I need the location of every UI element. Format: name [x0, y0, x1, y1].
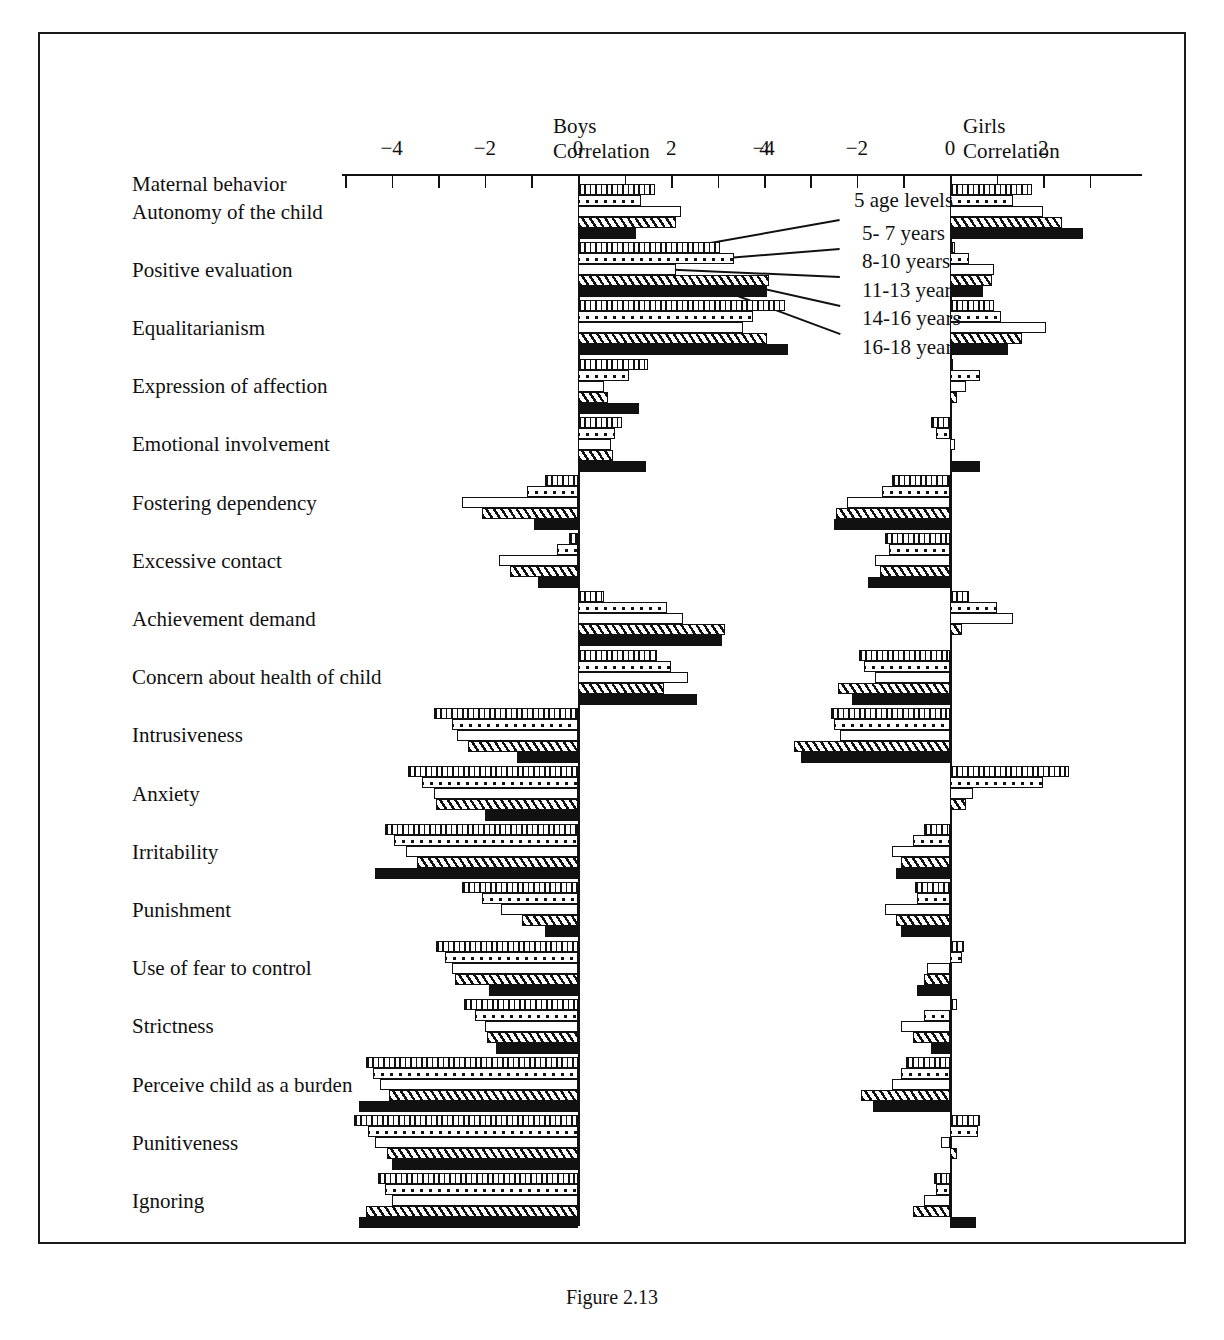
bar-boys-6-2	[499, 555, 578, 566]
bar-boys-11-2	[406, 846, 578, 857]
bar-boys-7-1	[578, 602, 667, 613]
bar-girls-12-4	[901, 926, 950, 937]
bar-girls-8-1	[864, 661, 950, 672]
bar-boys-14-3	[487, 1032, 578, 1043]
bar-boys-15-1	[373, 1068, 578, 1079]
axis-tick-girls-3	[1090, 174, 1092, 188]
bar-boys-3-3	[578, 392, 608, 403]
bar-boys-7-4	[578, 635, 722, 646]
bar-boys-6-0	[569, 533, 578, 544]
bar-boys-13-2	[452, 963, 578, 974]
row-label-4: Emotional involvement	[132, 432, 330, 456]
axis-tick-label-girls-1: −2	[827, 136, 887, 160]
bar-girls-9-3	[794, 741, 950, 752]
bar-girls-7-0	[950, 591, 969, 602]
row-label-12: Punishment	[132, 898, 231, 922]
bar-boys-17-1	[385, 1184, 578, 1195]
bar-girls-15-2	[892, 1079, 950, 1090]
bar-girls-7-3	[950, 624, 962, 635]
bar-girls-3-0	[950, 359, 953, 370]
bar-boys-15-0	[366, 1057, 578, 1068]
bar-boys-1-4	[578, 286, 767, 297]
bar-girls-7-1	[950, 602, 997, 613]
bar-boys-13-4	[489, 985, 578, 996]
bar-boys-17-3	[366, 1206, 578, 1217]
bar-girls-15-3	[861, 1090, 950, 1101]
bar-girls-8-3	[838, 683, 950, 694]
bar-boys-3-0	[578, 359, 648, 370]
bar-girls-12-1	[917, 893, 950, 904]
bar-girls-17-3	[913, 1206, 950, 1217]
bar-boys-9-4	[517, 752, 578, 763]
bar-boys-15-4	[359, 1101, 578, 1112]
bar-boys-11-3	[417, 857, 578, 868]
bar-girls-10-0	[950, 766, 1069, 777]
bar-boys-16-0	[354, 1115, 578, 1126]
bar-girls-12-0	[915, 882, 950, 893]
bar-girls-15-1	[901, 1068, 950, 1079]
bar-girls-1-0	[950, 242, 955, 253]
figure-caption: Figure 2.13	[0, 1286, 1224, 1326]
bar-boys-0-3	[578, 217, 676, 228]
bar-boys-11-4	[375, 868, 578, 879]
bar-girls-3-3	[950, 392, 957, 403]
bar-boys-5-1	[527, 486, 578, 497]
row-label-16: Punitiveness	[132, 1131, 238, 1155]
bar-boys-17-4	[359, 1217, 578, 1228]
figure-frame: BoysCorrelation GirlsCorrelation Materna…	[38, 32, 1186, 1244]
bar-boys-16-3	[387, 1148, 578, 1159]
bar-girls-4-4	[950, 461, 980, 472]
bar-boys-12-0	[462, 882, 579, 893]
bar-girls-17-1	[936, 1184, 950, 1195]
bar-boys-1-3	[578, 275, 769, 286]
row-label-15: Perceive child as a burden	[132, 1073, 352, 1097]
bar-girls-13-0	[950, 941, 964, 952]
axis-tick-label-boys-0: −4	[362, 136, 422, 160]
bar-girls-11-4	[896, 868, 950, 879]
bar-girls-12-2	[885, 904, 950, 915]
bar-boys-2-3	[578, 333, 767, 344]
bar-girls-3-2	[950, 381, 966, 392]
bar-boys-12-4	[545, 926, 578, 937]
bar-boys-7-0	[578, 591, 604, 602]
axis-tick-label-girls-2: 0	[920, 136, 980, 160]
row-label-17: Ignoring	[132, 1189, 204, 1213]
legend-item-1: 8-10 years	[862, 249, 950, 273]
bar-girls-2-3	[950, 333, 1022, 344]
bar-girls-10-1	[950, 777, 1043, 788]
bar-boys-11-1	[394, 835, 578, 846]
axis-tick-boys-4	[764, 174, 766, 188]
bar-boys-2-4	[578, 344, 788, 355]
bar-boys-7-3	[578, 624, 725, 635]
bar-girls-8-4	[852, 694, 950, 705]
axis-tick-boys-3	[718, 174, 720, 188]
bar-boys-11-0	[385, 824, 578, 835]
bar-girls-5-1	[882, 486, 950, 497]
bar-boys-4-3	[578, 450, 613, 461]
bar-boys-0-1	[578, 195, 641, 206]
bar-girls-11-1	[913, 835, 950, 846]
bar-girls-16-1	[950, 1126, 978, 1137]
bar-girls-16-0	[950, 1115, 980, 1126]
bar-boys-10-0	[408, 766, 578, 777]
legend-item-4: 16-18 years	[862, 335, 961, 359]
bar-boys-8-4	[578, 694, 697, 705]
bar-boys-6-1	[557, 544, 578, 555]
bar-girls-7-2	[950, 613, 1013, 624]
bar-girls-9-2	[840, 730, 950, 741]
row-label-7: Achievement demand	[132, 607, 316, 631]
bar-girls-17-2	[924, 1195, 950, 1206]
bar-boys-10-3	[436, 799, 578, 810]
bar-boys-15-2	[380, 1079, 578, 1090]
legend-item-2: 11-13 years	[862, 278, 960, 302]
bar-boys-9-1	[452, 719, 578, 730]
bar-boys-3-4	[578, 403, 639, 414]
bar-girls-0-2	[950, 206, 1043, 217]
bar-girls-13-3	[924, 974, 950, 985]
bar-boys-4-0	[578, 417, 622, 428]
row-label-2: Equalitarianism	[132, 316, 265, 340]
legend-item-3: 14-16 years	[862, 306, 961, 330]
legend-title: 5 age levels	[854, 188, 953, 212]
bar-girls-13-1	[950, 952, 962, 963]
row-label-13: Use of fear to control	[132, 956, 312, 980]
